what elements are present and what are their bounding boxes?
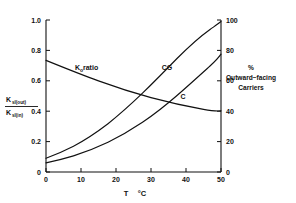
xtick-3: 30 <box>147 176 155 183</box>
left-axis-ticks <box>46 20 50 172</box>
x-axis-title-degC: °C <box>138 189 147 198</box>
ytick-left-2: 0.4 <box>31 108 41 115</box>
curve-label-k-ratio: K o ratio <box>75 64 98 73</box>
xtick-1: 10 <box>77 176 85 183</box>
curve-label-c: C <box>180 93 185 100</box>
bottom-axis-ticks <box>46 168 221 172</box>
ytick-right-2: 40 <box>226 108 234 115</box>
x-axis-title: T °C <box>124 189 147 198</box>
ytick-left-1: 0.2 <box>31 138 41 145</box>
curve-cg <box>46 22 221 159</box>
curve-label-k-rest: ratio <box>83 64 98 71</box>
y-axis-denominator-sub: sl(in) <box>12 113 23 118</box>
chart-figure: 0 0.2 0.4 0.6 0.8 1.0 0 20 40 60 80 100 … <box>0 0 296 203</box>
xtick-4: 40 <box>182 176 190 183</box>
percent-symbol: % <box>248 64 254 71</box>
curve-label-cg: CG <box>162 64 173 71</box>
carriers-label: Carriers <box>238 84 264 91</box>
ytick-left-5: 1.0 <box>31 17 41 24</box>
ytick-left-3: 0.6 <box>31 77 41 84</box>
y-axis-numerator-sub: sl(out) <box>12 100 27 105</box>
right-axis-ticks <box>217 20 221 172</box>
ytick-right-4: 80 <box>226 47 234 54</box>
ytick-left-0: 0 <box>37 169 41 176</box>
xtick-0: 0 <box>44 176 48 183</box>
ytick-right-5: 100 <box>226 17 238 24</box>
xtick-2: 20 <box>112 176 120 183</box>
ytick-right-1: 20 <box>226 138 234 145</box>
ytick-left-4: 0.8 <box>31 47 41 54</box>
y-axis-denominator: K <box>6 109 11 116</box>
outward-facing-label: Outward−facing <box>226 74 276 82</box>
ytick-right-0: 0 <box>226 169 230 176</box>
y-axis-title-right: % Outward−facing Carriers <box>226 64 276 91</box>
curve-k-ratio <box>46 60 221 111</box>
xtick-5: 50 <box>217 176 225 183</box>
x-axis-title-T: T <box>124 189 129 198</box>
chart-plot-area: 0 0.2 0.4 0.6 0.8 1.0 0 20 40 60 80 100 … <box>0 0 296 203</box>
y-axis-numerator: K <box>6 96 11 103</box>
